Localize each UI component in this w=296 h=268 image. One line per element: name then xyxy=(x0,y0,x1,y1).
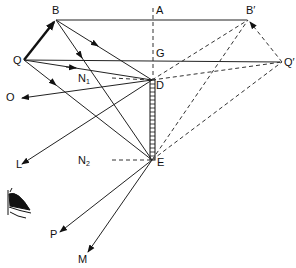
label-q-prime: Q′ xyxy=(284,56,295,68)
reflected-ray-p xyxy=(60,160,152,232)
reflected-ray-m xyxy=(88,160,152,252)
label-a: A xyxy=(156,4,164,16)
label-e: E xyxy=(157,156,164,168)
reflected-ray-l xyxy=(22,80,152,164)
label-d: D xyxy=(156,79,164,91)
label-b-prime: B′ xyxy=(246,4,255,16)
virtual-ray-e-qprime xyxy=(152,62,282,160)
label-o: O xyxy=(6,91,15,103)
ray-b-e-arrow xyxy=(78,52,82,58)
ray-q-e-arrow xyxy=(50,80,56,85)
label-n2: N2 xyxy=(78,154,90,167)
label-p: P xyxy=(50,228,57,240)
eye-icon xyxy=(8,188,31,218)
object-arrow-qb xyxy=(24,22,54,60)
label-b: B xyxy=(52,4,59,16)
label-l: L xyxy=(16,158,22,170)
ray-b-e xyxy=(56,20,152,160)
ray-q-d xyxy=(24,60,152,80)
line-q-qprime xyxy=(24,60,280,62)
optics-diagram: B A B′ Q G Q′ D E N1 N2 O L P M xyxy=(0,0,296,268)
ray-q-d-arrow xyxy=(66,67,76,68)
virtual-ray-e-bprime xyxy=(152,20,248,160)
label-m: M xyxy=(78,253,87,265)
label-g: G xyxy=(156,47,165,59)
ray-b-d xyxy=(56,20,152,80)
ray-b-d-arrow xyxy=(90,41,98,46)
label-n1: N1 xyxy=(78,72,90,85)
label-q: Q xyxy=(13,54,22,66)
virtual-ray-d-bprime xyxy=(152,20,248,80)
image-arrow-qprime-bprime xyxy=(250,22,282,62)
ray-q-e xyxy=(24,60,152,160)
